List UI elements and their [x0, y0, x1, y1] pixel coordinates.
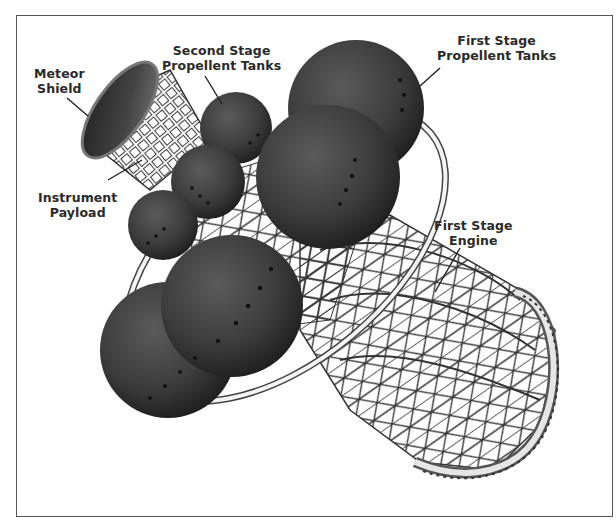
leader-meteor-shield — [67, 98, 88, 116]
label-instrument-payload: Instrument Payload — [38, 190, 117, 220]
label-line: Propellent Tanks — [162, 58, 281, 73]
leader-second-stage-tanks — [205, 76, 222, 104]
rocket-illustration — [0, 0, 616, 526]
label-line: First Stage — [434, 218, 513, 233]
label-line: Engine — [434, 233, 513, 248]
label-meteor-shield: Meteor Shield — [34, 66, 85, 96]
label-line: Instrument — [38, 190, 117, 205]
label-line: Meteor — [34, 66, 85, 81]
label-line: Payload — [38, 205, 117, 220]
label-line: Propellent Tanks — [437, 48, 556, 63]
label-second-stage-tanks: Second Stage Propellent Tanks — [162, 43, 281, 73]
label-line: Shield — [34, 81, 85, 96]
leader-first-stage-tanks — [420, 68, 440, 86]
label-first-stage-tanks: First Stage Propellent Tanks — [437, 33, 556, 63]
label-first-stage-engine: First Stage Engine — [434, 218, 513, 248]
label-line: Second Stage — [162, 43, 281, 58]
label-line: First Stage — [437, 33, 556, 48]
